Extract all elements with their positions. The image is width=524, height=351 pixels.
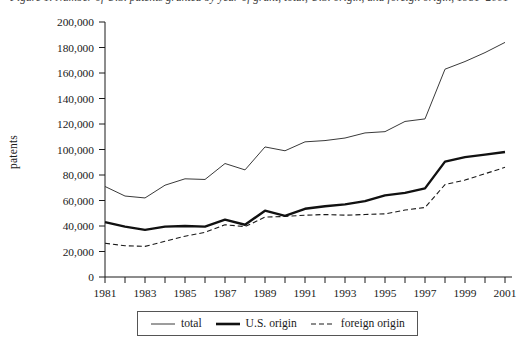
y-tick-label: 160,000 <box>57 67 94 79</box>
y-tick-label: 80,000 <box>63 169 95 181</box>
x-tick-label: 1999 <box>454 287 477 299</box>
y-tick-label: 180,000 <box>57 42 94 54</box>
y-tick-label: 60,000 <box>63 195 95 207</box>
x-tick-label: 1981 <box>94 287 117 299</box>
x-axis-tick-group: 1981198319851987198919911993199519971999… <box>94 277 517 299</box>
x-tick-label: 1995 <box>374 287 397 299</box>
legend-swatch-us-origin <box>215 319 241 329</box>
x-tick-label: 1993 <box>334 287 357 299</box>
y-tick-label: 120,000 <box>57 118 94 130</box>
legend-label-total: total <box>181 317 202 330</box>
y-tick-label: 200,000 <box>57 16 94 28</box>
x-tick-label: 1997 <box>414 287 437 299</box>
legend-label-foreign-origin: foreign origin <box>341 317 405 330</box>
series-line-foreign-origin <box>105 167 505 246</box>
x-tick-label: 2001 <box>494 287 517 299</box>
y-tick-label: 140,000 <box>57 93 94 105</box>
chart-legend: total U.S. origin foreign origin <box>137 311 418 336</box>
y-tick-label: 100,000 <box>57 144 94 156</box>
y-tick-label: 20,000 <box>63 246 95 258</box>
series-line-us-origin <box>105 152 505 230</box>
x-tick-label: 1985 <box>174 287 197 299</box>
legend-swatch-total <box>150 319 176 329</box>
x-tick-label: 1983 <box>134 287 157 299</box>
y-tick-label: 40,000 <box>63 220 95 232</box>
y-tick-label: 0 <box>88 271 94 283</box>
legend-swatch-foreign-origin <box>310 319 336 329</box>
legend-item-total: total <box>150 317 202 330</box>
x-tick-label: 1989 <box>254 287 277 299</box>
legend-item-us-origin: U.S. origin <box>215 317 297 330</box>
series-line-total <box>105 42 505 198</box>
line-chart-plot: 200,000180,000160,000140,000120,000100,0… <box>0 0 524 351</box>
legend-label-us-origin: U.S. origin <box>246 317 297 330</box>
figure-container: Figure 1. Number of U.S. patents granted… <box>0 0 524 351</box>
x-tick-label: 1987 <box>214 287 237 299</box>
x-tick-label: 1991 <box>294 287 317 299</box>
y-axis-tick-group: 200,000180,000160,000140,000120,000100,0… <box>57 16 105 283</box>
legend-item-foreign-origin: foreign origin <box>310 317 405 330</box>
